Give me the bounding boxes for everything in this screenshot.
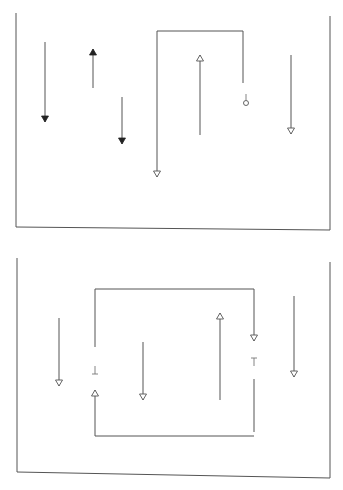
loop-connector (92, 289, 258, 436)
container-outline (16, 13, 330, 230)
arrowhead-down-icon (119, 138, 126, 144)
arrowhead-down-icon (154, 171, 161, 177)
arrow-down (119, 97, 126, 144)
arrow-down (291, 296, 298, 377)
arrowhead-down-icon (251, 335, 258, 341)
arrowhead-down-icon (140, 394, 147, 400)
arrow-down (140, 342, 147, 400)
arrowhead-up-icon (217, 313, 224, 319)
bracket-connector (154, 31, 249, 177)
container-outline (17, 258, 330, 478)
diagram-canvas (0, 0, 343, 490)
arrowhead-down-icon (288, 128, 295, 134)
panel-top (16, 13, 330, 230)
arrowhead-down-icon (291, 371, 298, 377)
arrowhead-up-icon (197, 55, 204, 61)
arrow-down (56, 318, 63, 386)
arrow-up (197, 55, 204, 135)
arrow-up (217, 313, 224, 400)
arrow-down (42, 42, 49, 122)
arrowhead-up-icon (92, 390, 99, 396)
arrowhead-up-icon (90, 49, 97, 55)
arrow-down (288, 55, 295, 134)
arrow-up (90, 49, 97, 88)
panel-bottom (17, 258, 330, 478)
arrowhead-down-icon (56, 380, 63, 386)
arrowhead-down-icon (42, 116, 49, 122)
circle-terminal-icon (244, 101, 249, 106)
